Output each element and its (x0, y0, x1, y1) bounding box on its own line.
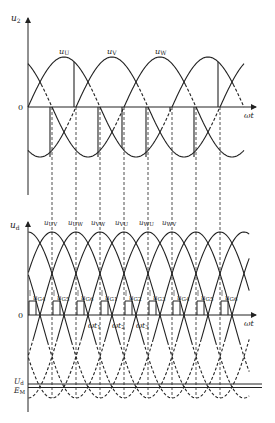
line-voltage-labels: uUV uUW uVW uVU uWU uWV (44, 219, 177, 227)
label-ug4: uG4 (33, 294, 46, 302)
top-plot: u2 0 ωt uU uV uW (11, 13, 256, 195)
label-ug5-2: uG5 (201, 294, 214, 302)
phase-label-v: uV (107, 47, 117, 56)
gate-pulse-labels: uG4 uG5 uG6 uG1 uG2 uG3 uG4 uG5 uG6 (33, 294, 238, 302)
phase-label-w: uW (155, 47, 167, 56)
label-ug1: uG1 (105, 294, 117, 302)
label-uuv: uUV (44, 219, 58, 227)
bottom-origin-label: 0 (18, 311, 23, 320)
top-y-axis-label: u2 (11, 13, 21, 24)
label-wt2: ωt2 (112, 321, 125, 330)
bottom-y-axis-label: ud (10, 220, 20, 231)
bottom-plot: ud 0 ωt uUV uUW uVW uVU uWU uWV uG4 uG5 … (10, 107, 262, 412)
label-uvu: uVU (115, 219, 128, 227)
phase-label-u: uU (59, 47, 69, 56)
label-uwu: uWU (139, 219, 154, 227)
label-ug6: uG6 (81, 294, 94, 302)
label-wt3: ωt3 (136, 321, 149, 330)
bottom-x-axis-label: ωt (244, 319, 255, 328)
label-ug2: uG2 (129, 294, 141, 302)
label-ud: Ud (14, 377, 24, 386)
waveform-diagram: u2 0 ωt uU uV uW ud 0 ωt uUV uUW uVW uVU… (0, 0, 275, 423)
label-em: EM (13, 386, 25, 395)
top-x-axis-label: ωt (244, 111, 255, 120)
label-uuw: uUW (68, 219, 83, 227)
label-uvw: uVW (91, 219, 105, 227)
label-ug5: uG5 (57, 294, 70, 302)
label-ug4-2: uG4 (177, 294, 190, 302)
label-ug3: uG3 (153, 294, 166, 302)
top-origin-label: 0 (18, 103, 23, 112)
label-wt1: ωt1 (88, 321, 101, 330)
label-uwv: uWV (162, 219, 177, 227)
label-ug6-2: uG6 (225, 294, 238, 302)
